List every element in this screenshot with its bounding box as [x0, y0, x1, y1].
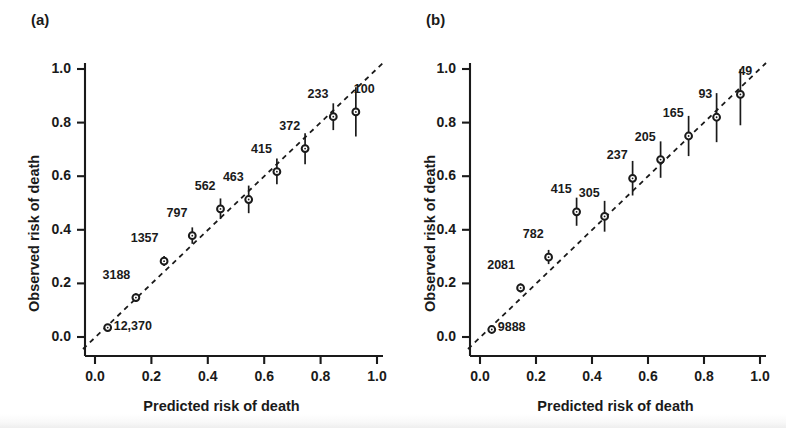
data-point-center: [604, 216, 606, 218]
y-tick-label: 0.8: [23, 114, 71, 130]
point-count-label: 9888: [498, 320, 526, 334]
x-tick-label: 0.2: [512, 368, 560, 384]
point-count-label: 562: [195, 179, 216, 193]
point-count-label: 233: [307, 87, 328, 101]
panel-b: (b) Observed risk of death Predicted ris…: [393, 0, 786, 428]
point-count-label: 3188: [102, 268, 130, 282]
point-count-label: 797: [166, 206, 187, 220]
point-count-label: 372: [279, 119, 300, 133]
data-point-center: [632, 177, 634, 179]
data-point-center: [135, 297, 137, 299]
point-count-label: 205: [635, 130, 656, 144]
identity-reference-line: [83, 63, 383, 349]
data-point-center: [276, 171, 278, 173]
y-tick-label: 0.4: [23, 221, 71, 237]
x-tick-label: 0.4: [184, 368, 232, 384]
panel-a: (a) Observed risk of death Predicted ris…: [0, 0, 393, 428]
data-point-center: [576, 211, 578, 213]
y-tick-label: 0.0: [408, 328, 456, 344]
point-count-label: 2081: [487, 258, 515, 272]
point-count-label: 782: [523, 227, 544, 241]
identity-reference-line: [468, 63, 766, 349]
data-point-center: [248, 199, 250, 201]
y-tick-label: 1.0: [408, 60, 456, 76]
data-point-center: [163, 260, 165, 262]
x-tick-label: 0.6: [624, 368, 672, 384]
point-count-label: 463: [223, 170, 244, 184]
x-tick-label: 0.8: [297, 368, 345, 384]
point-count-label: 237: [607, 148, 628, 162]
data-point-center: [740, 94, 742, 96]
point-count-label: 305: [579, 186, 600, 200]
panel-a-letter: (a): [31, 11, 49, 28]
data-point-center: [332, 116, 334, 118]
data-point-center: [520, 287, 522, 289]
point-count-label: 49: [738, 64, 752, 78]
data-point-center: [716, 116, 718, 118]
data-point-center: [548, 256, 550, 258]
data-point-center: [191, 235, 193, 237]
x-tick-label: 0.0: [456, 368, 504, 384]
x-tick-label: 0.6: [240, 368, 288, 384]
panel-b-x-axis-title: Predicted risk of death: [393, 398, 786, 414]
x-tick-label: 0.2: [127, 368, 175, 384]
panel-b-letter: (b): [426, 11, 445, 28]
calibration-figure: (a) Observed risk of death Predicted ris…: [0, 0, 786, 428]
y-tick-label: 0.4: [408, 221, 456, 237]
data-point-center: [220, 208, 222, 210]
y-tick-label: 0.2: [23, 274, 71, 290]
point-count-label: 415: [551, 182, 572, 196]
y-tick-label: 0.6: [23, 167, 71, 183]
y-tick-label: 1.0: [23, 60, 71, 76]
point-count-label: 415: [251, 142, 272, 156]
point-count-label: 12,370: [114, 319, 152, 333]
data-point-center: [491, 329, 493, 331]
data-point-center: [107, 327, 109, 329]
data-point-center: [660, 159, 662, 161]
y-tick-label: 0.2: [408, 274, 456, 290]
y-tick-label: 0.0: [23, 328, 71, 344]
point-count-label: 93: [698, 87, 712, 101]
data-point-center: [355, 111, 357, 113]
x-tick-label: 0.0: [71, 368, 119, 384]
panel-a-x-axis-title: Predicted risk of death: [0, 398, 393, 414]
point-count-label: 1357: [131, 231, 159, 245]
y-tick-label: 0.6: [408, 167, 456, 183]
point-count-label: 100: [354, 82, 375, 96]
x-tick-label: 0.4: [568, 368, 616, 384]
x-tick-label: 1.0: [736, 368, 784, 384]
x-tick-label: 0.8: [680, 368, 728, 384]
data-point-center: [304, 148, 306, 150]
y-tick-label: 0.8: [408, 114, 456, 130]
point-count-label: 165: [663, 106, 684, 120]
data-point-center: [688, 135, 690, 137]
